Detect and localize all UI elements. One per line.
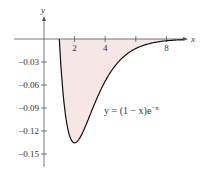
svg-text:−0.09: −0.09	[18, 103, 39, 113]
svg-text:2: 2	[72, 43, 77, 53]
equation-label: y = (1 − x)e−x	[104, 104, 159, 117]
shaded-region	[59, 39, 183, 143]
svg-text:8: 8	[164, 43, 169, 53]
chart: x y 248 −0.03−0.06−0.09−0.12−0.15 y = (1…	[0, 0, 203, 169]
svg-text:−0.12: −0.12	[18, 126, 39, 136]
y-ticks: −0.03−0.06−0.09−0.12−0.15	[18, 57, 47, 159]
x-axis-label: x	[190, 34, 195, 44]
svg-text:−0.03: −0.03	[18, 57, 39, 67]
svg-text:−0.15: −0.15	[18, 149, 39, 159]
svg-text:−0.06: −0.06	[18, 80, 39, 90]
y-axis-label: y	[40, 5, 45, 15]
y-axis: y	[40, 5, 46, 167]
svg-text:4: 4	[103, 43, 108, 53]
